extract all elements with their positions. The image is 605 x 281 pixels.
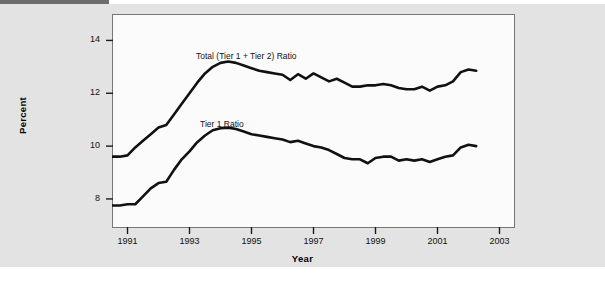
bottom-white-strip [0,267,605,281]
y-axis-title: Percent [17,76,28,156]
y-tick-label: 10 [78,140,100,150]
x-tick-label: 2003 [480,236,520,246]
x-axis-title: Year [0,253,605,264]
y-tick-label: 14 [78,34,100,44]
series-annotation-tier1: Tier 1 Ratio [200,119,244,129]
y-tick-label: 8 [78,193,100,203]
x-tick-label: 1997 [294,236,334,246]
y-tick-label: 12 [78,87,100,97]
figure-container: 8101214 1991199319951997199920012003 Per… [0,0,605,281]
x-tick-label: 2001 [418,236,458,246]
x-tick-label: 1993 [170,236,210,246]
x-tick-label: 1999 [356,236,396,246]
x-tick-label: 1995 [232,236,272,246]
x-tick-label: 1991 [108,236,148,246]
series-annotation-total: Total (Tier 1 + Tier 2) Ratio [196,51,297,61]
